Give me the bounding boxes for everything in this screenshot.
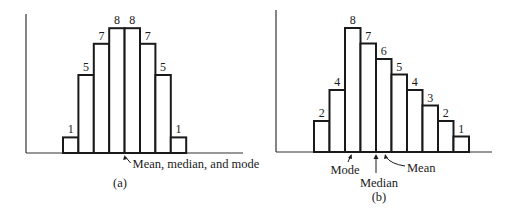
histogram-bar: 5 bbox=[392, 60, 408, 153]
median-label: Median bbox=[360, 176, 399, 190]
histogram-bar: 7 bbox=[361, 29, 377, 153]
mean-label: Mean bbox=[407, 161, 436, 175]
histogram-bar: 2 bbox=[314, 106, 330, 152]
bar-value-label: 5 bbox=[396, 60, 402, 74]
bar-value-label: 1 bbox=[458, 122, 464, 136]
bar-value-label: 6 bbox=[381, 44, 387, 58]
histogram-b-skewed: 2487654321ModeMedianMean(b) bbox=[0, 0, 515, 213]
bar-value-label: 4 bbox=[412, 75, 418, 89]
histogram-bar: 4 bbox=[407, 75, 423, 152]
arrowhead-icon bbox=[348, 154, 352, 159]
histogram-bar: 4 bbox=[330, 75, 346, 152]
bar-value-label: 7 bbox=[365, 29, 371, 43]
histogram-bar: 8 bbox=[345, 13, 361, 152]
mean-arrow-icon bbox=[386, 157, 405, 166]
bar-value-label: 8 bbox=[350, 13, 356, 27]
arrowhead-icon bbox=[374, 154, 379, 159]
histogram-bar: 6 bbox=[376, 44, 392, 152]
bar-value-label: 3 bbox=[427, 91, 433, 105]
mode-label: Mode bbox=[330, 163, 360, 177]
histogram-bar: 1 bbox=[454, 122, 470, 153]
histogram-bar: 2 bbox=[438, 106, 454, 152]
bar-value-label: 2 bbox=[319, 106, 325, 120]
figure: 15788751Mean, median, and mode(a) 248765… bbox=[0, 0, 515, 213]
bar-value-label: 4 bbox=[334, 75, 340, 89]
bar-value-label: 2 bbox=[443, 106, 449, 120]
histogram-bar: 3 bbox=[423, 91, 439, 153]
panel-caption-b: (b) bbox=[372, 190, 387, 204]
